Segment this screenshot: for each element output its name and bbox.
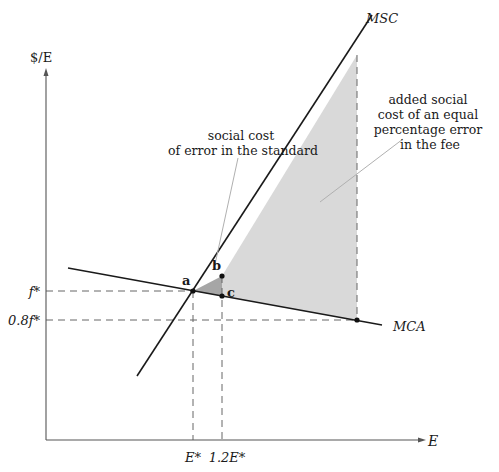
fee-error-line-2: cost of an equal (378, 107, 478, 122)
point-b-marker (219, 273, 224, 278)
x-tick-1.2e-star: 1.2E* (209, 450, 246, 465)
fee-error-line-1: added social (388, 92, 467, 107)
point-a-label: a (182, 273, 191, 288)
standard-error-leader (214, 158, 238, 269)
mca-label: MCA (392, 319, 426, 334)
x-axis-arrow-icon (418, 438, 426, 443)
msc-label: MSC (365, 11, 398, 26)
fee-error-line-3: percentage error (374, 122, 483, 137)
fee-error-region (222, 55, 357, 321)
standard-error-line-1: social cost (208, 128, 274, 143)
y-tick-f-star: f* (28, 284, 41, 299)
point-c-marker (219, 293, 224, 298)
mca-fee-point-marker (354, 317, 359, 322)
x-axis-label: E (427, 433, 438, 449)
fee-error-annotation: added social cost of an equal percentage… (374, 92, 487, 152)
point-a-marker (190, 288, 195, 293)
fee-error-line-4: in the fee (400, 137, 460, 152)
pollution-control-diagram: $/E E f* 0.8f* E* 1.2E* MSC MCA a b c so… (0, 0, 499, 472)
standard-error-line-2: of error in the standard (168, 143, 318, 158)
point-b-label: b (212, 258, 221, 273)
point-c-label: c (227, 285, 235, 300)
y-axis-arrow-icon (44, 68, 49, 76)
y-tick-0.8f-star: 0.8f* (8, 313, 40, 328)
x-tick-e-star: E* (184, 450, 201, 465)
y-axis-label: $/E (30, 50, 52, 65)
